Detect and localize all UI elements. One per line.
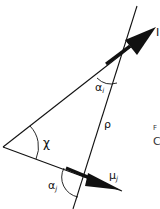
- mu-j-label: μj: [109, 170, 118, 183]
- mu-i-label-partial: I: [156, 27, 159, 38]
- edge-text-f: F: [153, 125, 157, 132]
- triangle-diagram: [0, 0, 160, 209]
- mu-i-arrowhead-icon: [125, 27, 156, 55]
- chi-angle-arc: [30, 126, 39, 159]
- chi-label: χ: [43, 137, 50, 149]
- edge-text-c: C: [153, 136, 160, 147]
- rho-label: ρ: [104, 119, 111, 130]
- rho-line: [73, 6, 137, 209]
- alpha-i-label: αi: [95, 82, 104, 95]
- alpha-j-label: αj: [48, 180, 57, 193]
- mu-i-arrow-shaft: [106, 46, 130, 64]
